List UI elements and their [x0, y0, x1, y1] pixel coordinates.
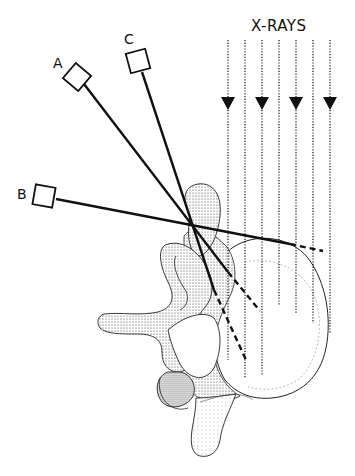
detector-c-box [126, 49, 150, 73]
diagram-canvas: X-RAYS A B C [0, 0, 355, 476]
arrow-down-icon [255, 97, 269, 110]
detector-b-label: B [17, 187, 27, 201]
spinous-process [191, 394, 236, 456]
xrays-label: X-RAYS [251, 19, 307, 34]
detectors [32, 49, 150, 208]
detector-b-box [32, 184, 55, 207]
detector-a-label: A [53, 56, 63, 70]
inferior-articular-process [157, 372, 194, 407]
arrow-down-icon [221, 97, 235, 110]
arrow-down-icon [289, 97, 303, 110]
vertebra-illustration [98, 184, 328, 457]
diagram-svg [0, 0, 355, 476]
beam-b-solid [56, 199, 290, 244]
arrow-down-icon [323, 97, 337, 110]
detector-c-label: C [124, 32, 134, 46]
